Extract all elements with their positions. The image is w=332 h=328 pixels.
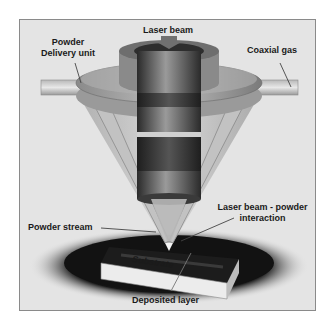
label-powder-delivery-line1: Powder [33,37,103,48]
label-powder-delivery-unit: Powder Delivery unit [33,37,103,59]
label-powder-stream: Powder stream [28,222,93,233]
label-interaction-line1: Laser beam - powder [210,202,315,213]
label-interaction-line2: interaction [210,213,315,224]
label-coaxial-gas: Coaxial gas [247,45,297,56]
label-laser-powder-interaction: Laser beam - powder interaction [210,202,315,224]
label-laser-beam: Laser beam [143,25,193,36]
label-powder-delivery-line2: Delivery unit [33,48,103,59]
diagram-frame: Laser beam Powder Delivery unit Coaxial … [19,19,316,311]
label-deposited-layer: Deposited layer [132,295,199,306]
